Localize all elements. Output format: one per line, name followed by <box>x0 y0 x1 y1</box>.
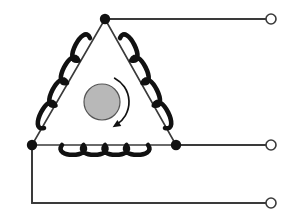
lead-wires-group <box>32 19 266 203</box>
terminal-bottom <box>266 198 276 208</box>
junction-nodes-group <box>27 14 181 150</box>
terminals-group <box>266 14 276 208</box>
schematic-canvas <box>0 0 290 213</box>
coil-left <box>38 34 90 128</box>
node-right <box>171 140 181 150</box>
delta-winding-diagram <box>0 0 290 213</box>
node-top <box>100 14 110 24</box>
terminal-middle <box>266 140 276 150</box>
terminal-top <box>266 14 276 24</box>
rotor-disc <box>84 84 120 120</box>
coil-bottom <box>61 145 150 155</box>
coil-right <box>120 34 171 128</box>
node-left <box>27 140 37 150</box>
